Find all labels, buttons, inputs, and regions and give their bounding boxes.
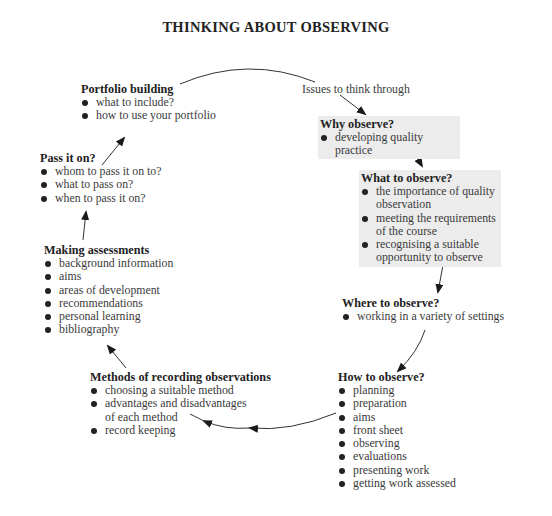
node-portfolio-building: Portfolio building what to include? how … [81, 82, 241, 123]
node-methods-of-recording: Methods of recording observations choosi… [90, 370, 250, 437]
node-heading: Why observe? [320, 117, 458, 131]
node-item: the importance of quality observation [361, 185, 499, 212]
node-item: personal learning [44, 310, 214, 323]
node-item: what to include? [81, 96, 241, 109]
node-item: bibliography [44, 323, 214, 336]
node-item: what to pass on? [40, 178, 200, 191]
node-item: areas of development [44, 284, 214, 297]
node-pass-it-on: Pass it on? whom to pass it on to? what … [40, 151, 200, 205]
node-item: how to use your portfolio [81, 109, 241, 122]
node-item: aims [338, 411, 518, 424]
node-item: recommendations [44, 297, 214, 310]
node-item: aims [44, 270, 214, 283]
node-heading: Pass it on? [40, 151, 200, 165]
start-label: Issues to think through [302, 82, 410, 97]
node-item: observing [338, 437, 518, 450]
node-item: working in a variety of settings [342, 310, 542, 323]
node-what-to-observe: What to observe? the importance of quali… [359, 170, 501, 267]
arrow-assess-to-pass [83, 212, 86, 240]
node-heading: Methods of recording observations [90, 370, 250, 384]
node-item: evaluations [338, 450, 518, 463]
node-item: meeting the requirements of the course [361, 212, 499, 239]
node-item: whom to pass it on to? [40, 165, 200, 178]
node-item: advantages and disadvantages of each met… [90, 397, 250, 424]
node-item: presenting work [338, 464, 518, 477]
node-why-observe: Why observe? developing quality practice [318, 116, 460, 159]
arrow-where-to-how [398, 330, 425, 371]
arrow-issues-to-why [340, 95, 365, 114]
node-item: developing quality practice [320, 131, 458, 158]
node-item: record keeping [90, 424, 250, 437]
node-heading: How to observe? [338, 370, 518, 384]
arrow-how-to-methods-1 [250, 413, 336, 429]
node-item: front sheet [338, 424, 518, 437]
node-item: preparation [338, 397, 518, 410]
node-where-to-observe: Where to observe? working in a variety o… [342, 296, 542, 323]
node-item: recognising a suitable opportunity to ob… [361, 238, 499, 265]
node-item: background information [44, 257, 214, 270]
node-item: planning [338, 384, 518, 397]
arrow-what-to-where [438, 265, 443, 292]
node-heading: Where to observe? [342, 296, 542, 310]
arrow-methods-to-assess [108, 346, 126, 368]
node-how-to-observe: How to observe? planning preparation aim… [338, 370, 518, 490]
node-making-assessments: Making assessments background informatio… [44, 243, 214, 337]
node-heading: What to observe? [361, 171, 499, 185]
node-item: choosing a suitable method [90, 384, 250, 397]
node-item: getting work assessed [338, 477, 518, 490]
node-item: when to pass it on? [40, 192, 200, 205]
node-heading: Making assessments [44, 243, 214, 257]
node-heading: Portfolio building [81, 82, 241, 96]
